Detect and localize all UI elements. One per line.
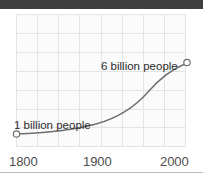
end-annotation-label: 6 billion people bbox=[101, 61, 178, 73]
top-band-divider bbox=[0, 0, 203, 9]
bottom-rule-divider bbox=[0, 172, 203, 173]
x-axis-tick-2000: 2000 bbox=[160, 155, 189, 168]
start-annotation-label: 1 billion people bbox=[14, 120, 91, 132]
x-axis-tick-1800: 1800 bbox=[9, 155, 38, 168]
start-marker-icon bbox=[13, 131, 19, 137]
population-line-chart bbox=[0, 9, 203, 172]
world-population-chart-figure: 1 billion people 6 billion people 1800 1… bbox=[0, 0, 203, 179]
chart-plot-stage: 1 billion people 6 billion people 1800 1… bbox=[0, 9, 203, 172]
end-marker-icon bbox=[184, 59, 190, 65]
x-axis-tick-1900: 1900 bbox=[83, 155, 112, 168]
